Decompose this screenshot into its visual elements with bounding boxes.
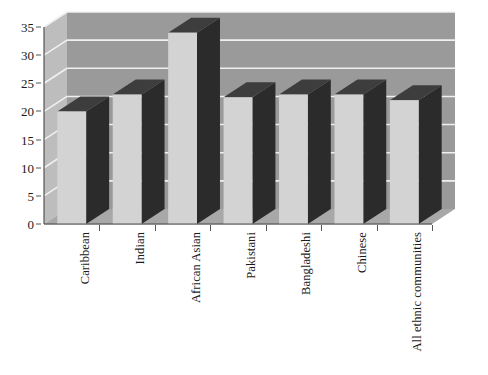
y-axis-tick-label: 10 (21, 161, 34, 174)
y-axis-tick-mark (36, 195, 41, 196)
x-axis-category-label: Pakistani (244, 232, 259, 279)
x-axis-category-label: Indian (133, 232, 148, 265)
y-axis-tick-label: 0 (28, 218, 35, 231)
y-axis-tick-labels: 05101520253035 (0, 0, 34, 375)
y-axis-tick-mark (36, 55, 41, 56)
y-axis-tick-label: 20 (21, 105, 34, 118)
x-axis-tick-mark (266, 225, 267, 231)
bar-column (334, 80, 386, 224)
y-axis-tick-mark (36, 139, 41, 140)
chart-container: 05101520253035 CaribbeanIndianAfrican As… (0, 0, 488, 375)
y-axis-tick-label: 5 (28, 189, 35, 202)
x-axis-tick-mark (210, 225, 211, 231)
x-axis-category-label: Caribbean (78, 232, 93, 284)
bar-column (113, 80, 165, 224)
y-axis-tick-label: 35 (21, 21, 34, 34)
x-axis-tick-mark (377, 225, 378, 231)
x-axis-category-label: All ethnic communities (410, 232, 425, 352)
x-axis-tick-mark (155, 225, 156, 231)
x-axis-category-label: Chinese (355, 232, 370, 273)
y-axis-tick-label: 25 (21, 77, 34, 90)
x-axis-tick-mark (321, 225, 322, 231)
x-axis-category-label: Bangladeshi (299, 232, 314, 295)
bar-column (390, 85, 442, 224)
y-axis-tick-label: 30 (21, 49, 34, 62)
x-axis-category-label: African Asian (189, 232, 204, 303)
y-axis-tick-mark (36, 111, 41, 112)
y-axis-tick-mark (36, 224, 41, 225)
y-axis-tick-mark (36, 83, 41, 84)
y-axis-tick-mark (36, 167, 41, 168)
bar-column (168, 18, 220, 224)
bar-column (57, 96, 109, 224)
y-axis-tick-label: 15 (21, 133, 34, 146)
bar-column (279, 80, 331, 224)
y-axis-tick-mark (36, 27, 41, 28)
bar-column (224, 82, 276, 224)
x-axis-tick-mark (432, 225, 433, 231)
x-axis-tick-mark (99, 225, 100, 231)
